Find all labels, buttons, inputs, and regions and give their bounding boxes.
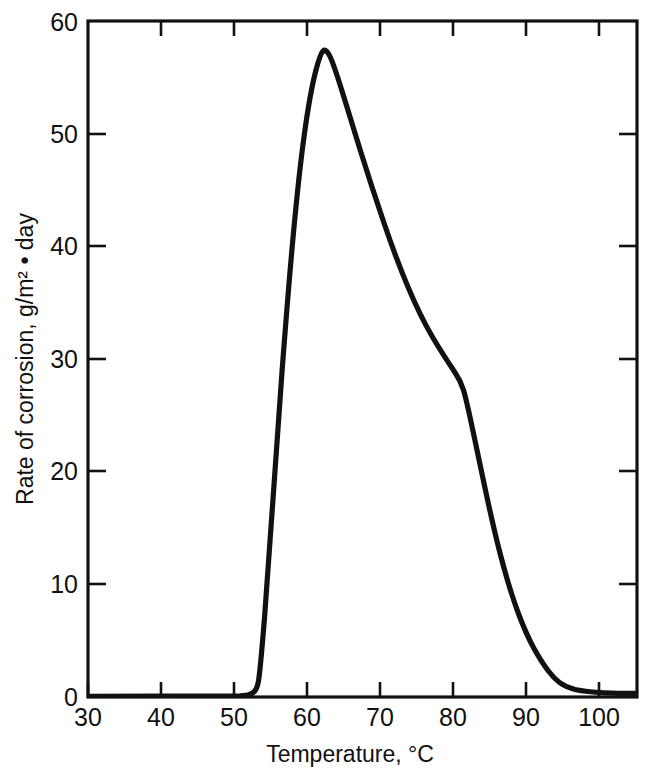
- y-tick-label-20: 20: [50, 457, 78, 485]
- x-axis-title: Temperature, °C: [266, 741, 434, 767]
- x-tick-label-60: 60: [293, 703, 321, 731]
- x-axis-top-tick-marks: [161, 21, 599, 36]
- x-tick-label-50: 50: [220, 703, 248, 731]
- x-tick-label-40: 40: [147, 703, 175, 731]
- x-tick-label-70: 70: [366, 703, 394, 731]
- x-tick-label-90: 90: [512, 703, 540, 731]
- y-tick-label-50: 50: [50, 120, 78, 148]
- corrosion-rate-line-chart: 30 40 50 60 70 80 90 100 0 10 20 30 40 5…: [0, 0, 663, 780]
- y-axis-right-tick-marks: [619, 134, 637, 584]
- y-tick-label-30: 30: [50, 345, 78, 373]
- y-tick-label-0: 0: [64, 683, 78, 711]
- x-tick-label-100: 100: [578, 703, 620, 731]
- x-tick-label-30: 30: [74, 703, 102, 731]
- x-tick-label-80: 80: [439, 703, 467, 731]
- y-tick-label-60: 60: [50, 8, 78, 36]
- y-axis-tick-marks: [88, 134, 106, 584]
- curve-baseline-segment: [89, 694, 250, 696]
- y-tick-label-40: 40: [50, 232, 78, 260]
- corrosion-rate-curve: [250, 50, 636, 694]
- chart-figure: 30 40 50 60 70 80 90 100 0 10 20 30 40 5…: [0, 0, 663, 780]
- y-axis-title: Rate of corrosion, g/m² • day: [12, 213, 38, 505]
- plot-frame: [88, 21, 637, 697]
- y-tick-label-10: 10: [50, 570, 78, 598]
